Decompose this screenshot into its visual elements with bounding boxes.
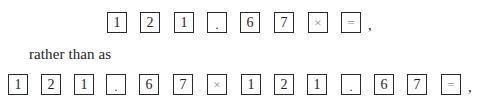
key-sequence-long: 1 2 1 . 6 7 × 1 2 1 . 6 7 = , xyxy=(0,74,478,96)
key-6: 6 xyxy=(374,74,394,95)
key-sequence-short: 1 2 1 . 6 7 × = , xyxy=(0,12,478,34)
key-label: 1 xyxy=(15,78,22,92)
key-label: 2 xyxy=(147,16,154,30)
key-7: 7 xyxy=(173,74,193,95)
equals-icon: = xyxy=(447,78,454,91)
key-label: 2 xyxy=(281,78,288,92)
key-label: 6 xyxy=(381,78,388,92)
key-1: 1 xyxy=(307,74,327,95)
key-1: 1 xyxy=(8,74,28,95)
key-1: 1 xyxy=(174,12,194,33)
key-equals: = xyxy=(441,74,461,95)
key-decimal-point: . xyxy=(106,74,126,95)
key-decimal-point: . xyxy=(341,74,361,95)
key-2: 2 xyxy=(274,74,294,95)
key-7: 7 xyxy=(407,74,427,95)
key-label: 6 xyxy=(247,16,254,30)
key-label: . xyxy=(115,81,118,93)
key-1: 1 xyxy=(74,74,94,95)
key-6: 6 xyxy=(139,74,159,95)
key-2: 2 xyxy=(140,12,160,33)
key-label: 2 xyxy=(48,78,55,92)
trailing-comma: , xyxy=(468,80,472,95)
multiply-icon: × xyxy=(314,16,321,29)
key-6: 6 xyxy=(240,12,260,33)
key-label: . xyxy=(350,81,353,93)
key-label: 7 xyxy=(281,16,288,30)
key-1: 1 xyxy=(241,74,261,95)
key-label: 1 xyxy=(248,78,255,92)
key-label: 1 xyxy=(314,78,321,92)
key-equals: = xyxy=(341,12,361,33)
key-label: 1 xyxy=(181,16,188,30)
multiply-icon: × xyxy=(213,78,220,91)
key-multiply: × xyxy=(308,12,328,33)
key-7: 7 xyxy=(274,12,294,33)
key-label: 6 xyxy=(146,78,153,92)
key-multiply: × xyxy=(207,74,227,95)
key-label: 1 xyxy=(114,16,121,30)
equals-icon: = xyxy=(347,16,354,29)
key-label: 7 xyxy=(180,78,187,92)
key-label: 1 xyxy=(81,78,88,92)
key-2: 2 xyxy=(41,74,61,95)
key-decimal-point: . xyxy=(207,12,227,33)
key-1: 1 xyxy=(107,12,127,33)
connector-text: rather than as xyxy=(29,46,111,63)
trailing-comma: , xyxy=(368,18,372,33)
key-label: . xyxy=(216,19,219,31)
key-label: 7 xyxy=(414,78,421,92)
